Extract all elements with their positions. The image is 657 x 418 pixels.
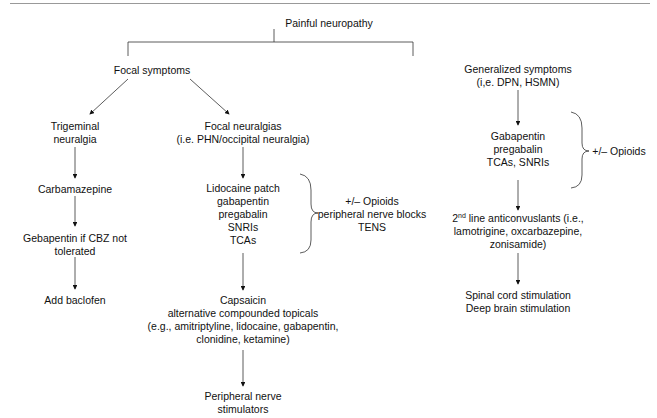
arrow-focal-neuralgias (190, 79, 229, 114)
topical-line: Capsaicin (148, 294, 339, 307)
drug-line: gabapentin (206, 195, 280, 208)
baclofen-node: Add baclofen (44, 294, 105, 307)
topical-line: (e.g., amitriptyline, lidocaine, gabapen… (148, 320, 339, 333)
step-line: Add baclofen (44, 294, 105, 307)
drug-line: pregabalin (206, 208, 280, 221)
neuralgias-line: (i.e. PHN/occipital neuralgia) (176, 133, 309, 146)
drug-line: SNRIs (206, 221, 280, 234)
ordinal-suffix: nd (458, 212, 466, 219)
drug-line: pregabalin (487, 143, 549, 156)
second-line-text: line anticonvuslants (i.e., (466, 212, 584, 224)
drug-line: TCAs, SNRIs (487, 156, 549, 169)
generalized-adjunct-node: +/– Opioids (592, 145, 645, 158)
second-line-line2: lamotrigine, oxcarbazepine, (452, 225, 584, 238)
final-line: stimulators (204, 403, 281, 416)
trigeminal-line: Trigeminal (51, 120, 100, 133)
carbamazepine-node: Carbamazepine (38, 183, 112, 196)
trigeminal-node: Trigeminal neuralgia (51, 120, 100, 146)
generalized-line: Generalized symptoms (464, 63, 571, 76)
arrow-focal-trigeminal (90, 79, 128, 114)
final-line: Deep brain stimulation (465, 302, 571, 315)
adjunct-line: TENS (318, 221, 427, 234)
trigeminal-line: neuralgia (51, 133, 100, 146)
final-line: Peripheral nerve (204, 390, 281, 403)
topical-line: alternative compounded topicals (148, 307, 339, 320)
topicals-node: Capsaicin alternative compounded topical… (148, 294, 339, 346)
brace-focal (300, 174, 318, 253)
root-label: Painful neuropathy (285, 17, 373, 29)
adjunct-line: +/– Opioids (592, 145, 645, 158)
gabapentin-cbz-node: Gebapentin if CBZ not tolerated (23, 232, 127, 258)
neuralgias-line: Focal neuralgias (176, 120, 309, 133)
brace-generalized (571, 112, 589, 188)
step-line: Carbamazepine (38, 183, 112, 196)
generalized-node: Generalized symptoms (i,e. DPN, HSMN) (464, 63, 571, 89)
adjunct-line: +/– Opioids (318, 195, 427, 208)
focal-adjuncts-node: +/– Opioids peripheral nerve blocks TENS (318, 195, 427, 234)
focal-label: Focal symptoms (114, 64, 190, 76)
focal-node: Focal symptoms (114, 64, 190, 77)
generalized-line: (i,e. DPN, HSMN) (464, 76, 571, 89)
step-line: Gebapentin if CBZ not (23, 232, 127, 245)
adjunct-line: peripheral nerve blocks (318, 208, 427, 221)
drug-line: Gabapentin (487, 130, 549, 143)
focal-neuralgias-node: Focal neuralgias (i.e. PHN/occipital neu… (176, 120, 309, 146)
peripheral-stimulators-node: Peripheral nerve stimulators (204, 390, 281, 416)
second-line-line3: zonisamide) (452, 238, 584, 251)
drug-line: Lidocaine patch (206, 182, 280, 195)
first-line-focal-node: Lidocaine patch gabapentin pregabalin SN… (206, 182, 280, 247)
second-line-line1: 2nd line anticonvuslants (i.e., (452, 212, 584, 225)
final-line: Spinal cord stimulation (465, 289, 571, 302)
first-line-generalized-node: Gabapentin pregabalin TCAs, SNRIs (487, 130, 549, 169)
topical-line: clonidine, ketamine) (148, 333, 339, 346)
step-line: tolerated (23, 245, 127, 258)
root-node: Painful neuropathy (285, 17, 373, 30)
second-line-node: 2nd line anticonvuslants (i.e., lamotrig… (452, 212, 584, 251)
drug-line: TCAs (206, 234, 280, 247)
stimulation-node: Spinal cord stimulation Deep brain stimu… (465, 289, 571, 315)
